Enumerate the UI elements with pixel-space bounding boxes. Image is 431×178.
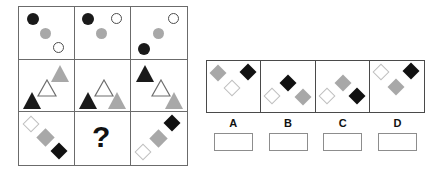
matrix-cell-r2c1 [19, 60, 75, 113]
option-A[interactable] [207, 61, 261, 112]
matrix-cell-r3c3 [131, 112, 187, 165]
diamond-black-icon [51, 143, 68, 160]
answer-col-A: A [206, 116, 261, 166]
diamond-grey-icon [334, 75, 351, 92]
circle-grey-icon [40, 28, 51, 39]
matrix-cell-r3c2: ? [75, 112, 131, 165]
circle-white-icon [53, 42, 64, 53]
diamond-white-icon [264, 88, 281, 105]
diamond-black-icon [348, 88, 365, 105]
matrix-grid: ? [18, 6, 188, 166]
matrix-cell-r1c2 [75, 7, 131, 60]
option-B[interactable] [261, 61, 315, 112]
circle-black-icon [138, 43, 150, 55]
answer-label-A: A [229, 116, 237, 130]
triangle-grey-icon [108, 92, 126, 109]
options-panel [206, 60, 425, 113]
answer-col-C: C [316, 116, 371, 166]
answer-label-D: D [394, 116, 402, 130]
triangle-black-icon [23, 92, 41, 109]
answer-col-D: D [370, 116, 425, 166]
diamond-grey-icon [295, 89, 312, 106]
diamond-black-icon [402, 63, 419, 80]
diamond-white-icon [372, 64, 389, 81]
diamond-white-icon [23, 116, 40, 133]
triangle-black-icon [79, 92, 97, 109]
answer-box-B[interactable] [269, 133, 308, 151]
circle-grey-icon [153, 28, 164, 39]
matrix-cell-r2c2 [75, 60, 131, 113]
matrix-cell-r1c3 [131, 7, 187, 60]
option-C[interactable] [316, 61, 370, 112]
circle-white-icon [168, 13, 179, 24]
diamond-white-icon [135, 144, 152, 161]
option-D[interactable] [370, 61, 424, 112]
diamond-white-icon [318, 88, 335, 105]
matrix-cell-r2c3 [131, 60, 187, 113]
circle-black-icon [82, 13, 94, 25]
answer-label-B: B [284, 116, 292, 130]
diamond-black-icon [164, 115, 181, 132]
diamond-grey-icon [36, 129, 54, 147]
diamond-grey-icon [210, 65, 227, 82]
diamond-black-icon [240, 64, 257, 81]
question-mark: ? [92, 122, 110, 152]
diamond-white-icon [224, 80, 241, 97]
answer-box-C[interactable] [323, 133, 362, 151]
answer-box-D[interactable] [378, 133, 417, 151]
matrix-cell-r1c1 [19, 7, 75, 60]
diamond-grey-icon [149, 130, 167, 148]
circle-black-icon [27, 13, 39, 25]
matrix-cell-r3c1 [19, 112, 75, 165]
triangle-grey-icon [165, 92, 183, 109]
circle-white-icon [111, 13, 122, 24]
answer-col-B: B [261, 116, 316, 166]
answer-row: ABCD [206, 116, 425, 166]
diamond-grey-icon [387, 79, 404, 96]
circle-grey-icon [96, 28, 107, 39]
diamond-black-icon [280, 75, 297, 92]
answer-box-A[interactable] [214, 133, 253, 151]
answer-label-C: C [339, 116, 347, 130]
